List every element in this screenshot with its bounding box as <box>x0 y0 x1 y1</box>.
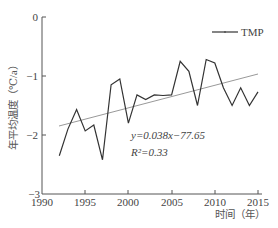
legend-label: TMP <box>241 26 264 38</box>
svg-text:1995: 1995 <box>74 196 97 208</box>
svg-text:2015: 2015 <box>247 196 270 208</box>
svg-text:−2: −2 <box>26 129 38 141</box>
r-squared: R²=0.33 <box>130 146 168 158</box>
svg-text:2005: 2005 <box>161 196 184 208</box>
x-axis: 1990 1995 2000 2005 2010 2015 <box>31 190 270 208</box>
svg-text:−1: −1 <box>26 70 38 82</box>
y-axis: 0 −1 −2 −3 <box>26 11 46 200</box>
svg-text:0: 0 <box>33 11 39 23</box>
svg-text:2000: 2000 <box>117 196 140 208</box>
y-axis-label: 年平均温度（℃/a） <box>7 60 19 149</box>
line-chart: 0 −1 −2 −3 1990 1995 2000 2005 2010 2015… <box>0 0 278 228</box>
x-axis-label: 时间（年） <box>215 208 265 220</box>
regression-equation: y=0.038x−77.65 <box>130 129 206 141</box>
tmp-series-line <box>59 60 258 160</box>
trend-line <box>59 74 258 126</box>
legend: TMP <box>212 26 264 38</box>
svg-text:2010: 2010 <box>204 196 227 208</box>
svg-text:1990: 1990 <box>31 196 54 208</box>
